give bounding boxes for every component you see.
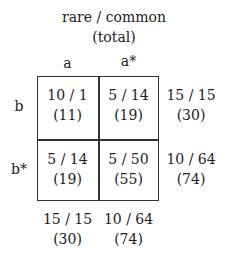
header-line-1: rare / common (0, 8, 228, 26)
row-divider (37, 139, 159, 141)
column-label-a: a (37, 54, 98, 72)
col-margin-a-total: (30) (37, 230, 98, 248)
row-margin-bstar-total: (74) (161, 170, 221, 188)
cell-b-a-ratio: 10 / 1 (37, 86, 98, 104)
cell-bstar-astar-total: (55) (98, 170, 159, 188)
row-label-b: b (4, 97, 34, 115)
column-label-a-star: a* (98, 52, 159, 70)
cell-b-astar-ratio: 5 / 14 (98, 86, 159, 104)
col-margin-a-ratio: 15 / 15 (37, 210, 98, 228)
cell-b-astar-total: (19) (98, 106, 159, 124)
cell-bstar-astar-ratio: 5 / 50 (98, 150, 159, 168)
col-margin-astar-ratio: 10 / 64 (98, 210, 159, 228)
col-margin-astar-total: (74) (98, 230, 159, 248)
row-margin-bstar-ratio: 10 / 64 (161, 150, 221, 168)
header-line-2: (total) (0, 28, 228, 46)
row-margin-b-total: (30) (161, 106, 221, 124)
cell-bstar-a-total: (19) (37, 170, 98, 188)
cell-bstar-a-ratio: 5 / 14 (37, 150, 98, 168)
cell-b-a-total: (11) (37, 106, 98, 124)
row-margin-b-ratio: 15 / 15 (161, 86, 221, 104)
row-label-b-star: b* (4, 160, 34, 178)
